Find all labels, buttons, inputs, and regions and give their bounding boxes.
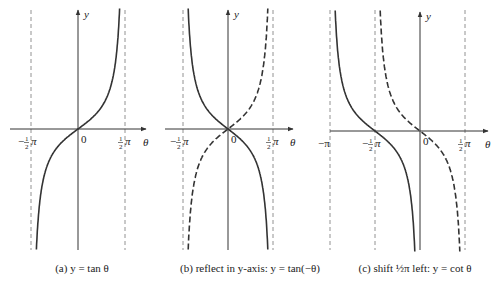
tick-label: 12π [458,137,471,153]
svg-text:1: 1 [25,135,29,143]
x-axis-label: θ [290,136,296,148]
x-axis-label: θ [143,136,149,148]
panel-a-tan: yθ0−12π12π [10,8,149,250]
svg-text:−π: −π [318,137,330,149]
tick-label: −12π [170,135,189,151]
tick-label: −12π [18,135,37,151]
svg-text:2: 2 [177,143,181,151]
captions: (a) y = tan θ (b) reflect in y-axis: y =… [55,262,471,275]
svg-text:2: 2 [267,143,271,151]
svg-text:1: 1 [119,135,123,143]
x-axis-label: θ [485,138,491,150]
svg-text:π: π [465,137,471,149]
tangent-cotangent-figure: yθ0−12π12π yθ0−12π12π yθ0−π−12π12π (a) y… [0,0,501,288]
y-axis-label: y [425,10,431,22]
svg-text:π: π [183,135,189,147]
caption-a: (a) y = tan θ [55,262,109,275]
caption-b: (b) reflect in y-axis: y = tan(−θ) [180,262,320,275]
svg-text:π: π [273,135,279,147]
svg-text:−: − [18,135,24,147]
svg-text:π: π [31,135,37,147]
panel-b-tan-reflected: yθ0−12π12π [165,8,296,250]
caption-c: (c) shift ½π left: y = cot θ [359,262,472,275]
svg-text:1: 1 [177,135,181,143]
svg-text:π: π [125,135,131,147]
svg-text:1: 1 [369,137,373,145]
svg-text:2: 2 [25,143,29,151]
origin-label: 0 [231,133,237,145]
tick-label: −π [318,137,330,149]
svg-text:1: 1 [267,135,271,143]
svg-text:−: − [170,135,176,147]
svg-text:2: 2 [369,145,373,153]
tick-label: 12π [118,135,131,151]
tick-label: 12π [266,135,279,151]
origin-label: 0 [81,133,87,145]
svg-text:2: 2 [459,145,463,153]
panel-c-cot: yθ0−π−12π12π [318,10,491,252]
svg-text:1: 1 [459,137,463,145]
svg-text:−: − [362,137,368,149]
y-axis-label: y [233,8,239,20]
tick-label: −12π [362,137,381,153]
svg-text:2: 2 [119,143,123,151]
svg-text:π: π [375,137,381,149]
origin-label: 0 [423,135,429,147]
y-axis-label: y [83,8,89,20]
